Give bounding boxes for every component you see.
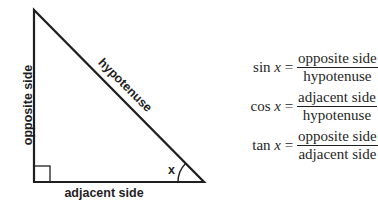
right-triangle [34,10,204,182]
angle-arc [178,164,186,182]
tan-fraction: opposite side adjacent side [297,128,378,163]
angle-x-label: x [168,164,175,177]
tan-numerator: opposite side [297,128,378,145]
tan-function: tan x [229,137,281,154]
sin-function: sin x [229,59,281,76]
equals-sign: = [281,137,297,154]
sin-numerator: opposite side [297,50,378,67]
sin-fraction: opposite side hypotenuse [297,50,378,85]
adjacent-side-label: adjacent side [64,187,144,200]
tan-denominator: adjacent side [297,146,377,163]
sin-formula: sin x = opposite side hypotenuse [229,48,378,87]
tan-formula: tan x = opposite side adjacent side [229,126,378,165]
equals-sign: = [281,98,297,115]
sin-denominator: hypotenuse [302,68,372,85]
cos-formula: cos x = adjacent side hypotenuse [229,87,378,126]
trig-formulas: sin x = opposite side hypotenuse cos x =… [229,48,378,165]
cos-numerator: adjacent side [297,89,377,106]
cos-denominator: hypotenuse [302,107,372,124]
right-angle-marker [34,166,50,182]
opposite-side-label: opposite side [22,65,35,145]
cos-function: cos x [229,98,281,115]
equals-sign: = [281,59,297,76]
cos-fraction: adjacent side hypotenuse [297,89,377,124]
